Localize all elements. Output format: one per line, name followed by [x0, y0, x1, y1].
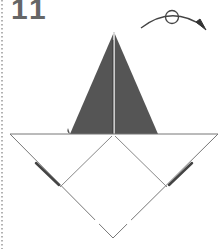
turn-over-icon [141, 11, 206, 31]
origami-diagram [0, 0, 224, 249]
paper-body [10, 134, 218, 238]
colored-flap [67, 32, 158, 134]
